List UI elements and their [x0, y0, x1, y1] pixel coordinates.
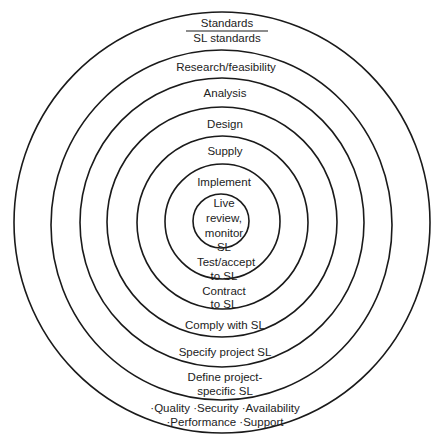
define-project-label-line-2: specific SL: [197, 385, 253, 397]
center-label-line-3: monitor: [205, 227, 244, 239]
center-label-line-2: review,: [206, 212, 242, 224]
contract-label-line-1: Contract: [202, 285, 246, 297]
specify-project-label: Specify project SL: [179, 346, 272, 358]
analysis-label: Analysis: [204, 87, 247, 99]
comply-label: Comply with SL: [185, 319, 265, 331]
contract-label-line-2: to SL: [211, 298, 238, 310]
test-accept-label-line-2: to SL: [211, 270, 238, 282]
define-project-label-line-1: Define project-: [188, 371, 263, 383]
test-accept-label-line-1: Test/accept: [197, 256, 256, 268]
research-feasibility-label: Research/feasibility: [176, 61, 276, 73]
standards-label: Standards: [201, 17, 254, 29]
implement-label: Implement: [197, 176, 251, 188]
concentric-diagram: Standards SL standards Research/feasibil…: [0, 0, 437, 445]
quality-attributes-line-1: ·Quality ·Security ·Availability: [150, 402, 300, 414]
center-label-line-1: Live: [213, 197, 234, 209]
supply-label: Supply: [207, 145, 242, 157]
design-label: Design: [207, 118, 243, 130]
sl-standards-label: SL standards: [193, 32, 261, 44]
quality-attributes-line-2: ·Performance ·Support: [167, 416, 285, 428]
center-label-line-4: SL: [217, 241, 232, 253]
